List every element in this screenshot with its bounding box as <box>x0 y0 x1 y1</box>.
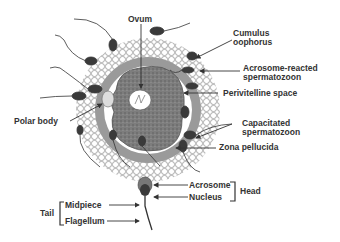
tail-label: Tail <box>40 209 54 218</box>
flagellum-label: Flagellum <box>65 217 105 226</box>
sperm-tail <box>145 196 152 230</box>
polar-body-label: Polar body <box>14 117 58 126</box>
midpiece-label: Midpiece <box>65 201 101 210</box>
zona-label: Zona pellucida <box>219 143 279 152</box>
nucleus-label: Nucleus <box>189 193 222 202</box>
sperm-nucleus <box>140 184 150 196</box>
perivitelline-label: Perivitelline space <box>223 89 297 98</box>
acrosome-label: Acrosome <box>189 181 231 190</box>
capacitated-label-2: spermatozoon <box>242 128 300 137</box>
acrosome-reacted-label-2: spermatozoon <box>243 73 301 82</box>
ovum-label: Ovum <box>128 15 152 24</box>
head-label: Head <box>240 187 261 196</box>
ovum <box>111 66 184 151</box>
cumulus-label-2: oophorus <box>233 38 272 47</box>
polar-body <box>102 91 114 107</box>
tail-bracket <box>60 202 64 225</box>
